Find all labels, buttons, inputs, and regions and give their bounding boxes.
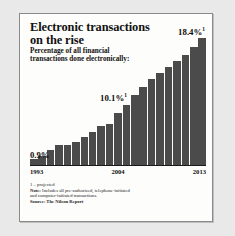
chart-figure: Electronic transactions on the rise Perc… [19, 13, 213, 222]
footnote-source-label: Source: [30, 199, 45, 204]
bar-2009 [165, 67, 173, 165]
chart-footnotes: 1 – projected Note: Includes all pre-aut… [30, 182, 206, 204]
footnote-note-label: Note: [30, 188, 41, 193]
annotation-first-value: 0.9% [30, 150, 49, 160]
annotation-middle-text: 10.1% [100, 93, 124, 103]
bar-1996 [55, 145, 63, 165]
annotation-last-value: 18.4%1 [178, 26, 205, 37]
bar-2007 [148, 79, 156, 165]
annotation-first-text: 0.9% [30, 150, 49, 160]
annotation-middle-superscript: 1 [124, 92, 127, 98]
bar-1998 [72, 142, 80, 165]
x-axis-tick-labels: 1993 2004 2013 [30, 168, 206, 178]
bar-1997 [64, 145, 72, 165]
bar-2004 [123, 105, 131, 165]
footnote-note-text-1: Includes all pre-authorized, telephone-i… [41, 188, 130, 193]
x-tick-label-middle: 2004 [111, 168, 124, 175]
x-tick-label-start: 1993 [30, 168, 43, 175]
x-tick-label-end: 2013 [193, 168, 206, 175]
bar-2010 [173, 61, 181, 165]
bar-2000 [89, 132, 97, 165]
bar-2006 [139, 87, 147, 165]
x-axis-line [30, 165, 206, 166]
footnote-source-value: The Nilson Report [45, 199, 83, 204]
bar-1999 [81, 137, 89, 165]
footnote-source: Source: The Nilson Report [30, 199, 206, 205]
bar-2003 [114, 113, 122, 165]
bar-2012 [190, 47, 198, 165]
bar-2013 [198, 38, 206, 165]
bar-2001 [97, 126, 105, 165]
bar-2005 [131, 95, 139, 165]
annotation-last-text: 18.4% [178, 27, 202, 37]
annotation-middle-value: 10.1%1 [100, 92, 127, 103]
bar-2008 [156, 73, 164, 165]
bar-2002 [106, 124, 114, 165]
bar-2011 [182, 55, 190, 165]
annotation-last-superscript: 1 [202, 26, 205, 32]
